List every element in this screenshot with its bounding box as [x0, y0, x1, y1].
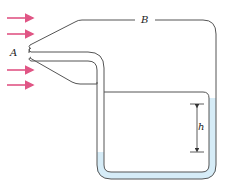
- pitot-manometer-diagram: A B h: [0, 0, 226, 189]
- outer-tube: [29, 20, 216, 179]
- manometer-fluid: [97, 98, 216, 179]
- inner-tube: [28, 48, 209, 172]
- label-b: B: [140, 14, 148, 25]
- label-a: A: [9, 47, 17, 58]
- label-h: h: [198, 121, 204, 132]
